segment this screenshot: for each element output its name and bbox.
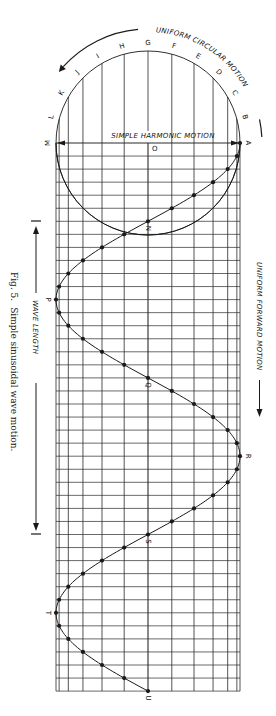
wave-point [122, 232, 126, 236]
circle-point-label-j: J [73, 69, 81, 77]
wave-point [81, 650, 85, 654]
circular-motion-label: UNIFORM CIRCULAR MOTION [156, 26, 250, 89]
wave-point [238, 454, 242, 458]
wave-point [192, 193, 196, 197]
circle-point-label-i: I [95, 52, 101, 60]
wave-point [235, 467, 239, 471]
wave-point [146, 689, 150, 693]
wave-point [238, 141, 242, 145]
wave-point [81, 572, 85, 576]
circle-point-label-l: L [47, 114, 56, 120]
wave-point [211, 415, 215, 419]
wave-point [81, 337, 85, 341]
circle-point-label-f: F [171, 42, 177, 51]
wave-length-label: WAVE LENGTH [31, 300, 39, 355]
wave-point [170, 206, 174, 210]
wave-point [192, 506, 196, 510]
wave-point [146, 219, 150, 223]
wave-point [146, 376, 150, 380]
wave-point [235, 154, 239, 158]
wave-point [170, 519, 174, 523]
wave-point [66, 271, 70, 275]
wave-point [235, 441, 239, 445]
wave-point [81, 258, 85, 262]
wavelength-marker: WAVE LENGTH [31, 221, 41, 534]
wave-point-label-u: U [144, 696, 152, 701]
wave-point [57, 284, 61, 288]
wave-point-label-p: P [44, 297, 52, 301]
figure-caption: Fig. 5.Simple sinusoidal wave motion. [9, 272, 19, 451]
wave-point [54, 298, 58, 302]
wavelength-up-arrow-icon [33, 226, 39, 234]
wave-point [226, 428, 230, 432]
wave-point [170, 389, 174, 393]
uniform-forward-motion-label: UNIFORM FORWARD MOTION [255, 262, 263, 371]
wave-point [122, 676, 126, 680]
wave-point-label-s: S [144, 539, 152, 544]
wave-point [100, 663, 104, 667]
right-arrowhead-icon [231, 141, 239, 146]
simple-harmonic-motion-label: SIMPLE HARMONIC MOTION [111, 132, 215, 140]
wave-point [100, 350, 104, 354]
wave-point [66, 637, 70, 641]
circle-point-label-g: G [145, 39, 150, 47]
grid [56, 51, 240, 691]
wave-point [211, 493, 215, 497]
wave-point-label-n: N [144, 226, 152, 231]
svg-text:Fig. 5.Simple sinusoidal wave: Fig. 5.Simple sinusoidal wave motion. [9, 272, 19, 451]
sinusoidal-wave-figure: ABCDEFGHIJKLMNPQRSTU UNIFORM CIRCULAR MO… [0, 0, 276, 716]
circular-motion-arrow [63, 29, 262, 137]
wave-point [226, 167, 230, 171]
wave-point [100, 245, 104, 249]
forward-motion-group: UNIFORM FORWARD MOTION [255, 262, 263, 417]
wave-point [54, 611, 58, 615]
wave-point [57, 624, 61, 628]
wave-point [226, 480, 230, 484]
wave-point [100, 559, 104, 563]
wave-point [192, 402, 196, 406]
wave-point-label-q: Q [144, 382, 152, 388]
wave-point [211, 180, 215, 184]
circle-point-label-e: E [194, 52, 202, 61]
circle-point-label-h: H [119, 42, 126, 51]
center-label-o: O [152, 145, 158, 153]
circle-point-label-a: A [244, 141, 252, 146]
wave-point [57, 598, 61, 602]
forward-arrow-icon [257, 409, 263, 417]
caption-figure-number: Fig. 5. [9, 272, 19, 301]
wave-point [122, 545, 126, 549]
wave-point-label-t: T [44, 610, 52, 616]
circle-point-label-b: B [240, 114, 249, 121]
wave-point [66, 585, 70, 589]
wave-point [57, 311, 61, 315]
wave-point-label-r: R [244, 454, 252, 459]
circle-point-label-m: M [44, 140, 52, 146]
circle-point-label-d: D [214, 67, 223, 76]
wave-point [146, 532, 150, 536]
caption-text: Simple sinusoidal wave motion. [9, 307, 19, 451]
wavelength-down-arrow-icon [33, 523, 39, 531]
circle-point-label-k: K [57, 89, 66, 97]
left-arrowhead-icon [57, 141, 65, 146]
wave-point [122, 363, 126, 367]
circle-point-label-c: C [230, 89, 239, 97]
wave-point [66, 324, 70, 328]
